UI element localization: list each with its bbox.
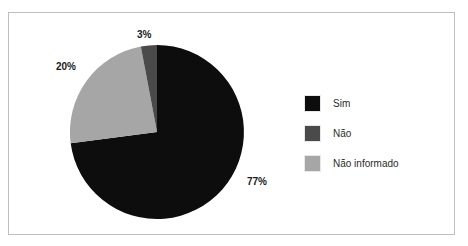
legend-label-sim: Sim [333, 95, 350, 112]
pie-label-nao-percent: 3% [137, 29, 151, 40]
legend-swatch-nao [304, 125, 321, 142]
legend-swatch-nao-informado [304, 155, 321, 172]
screenshot-root: 3% 20% 77% Sim Não Não informado [0, 0, 468, 246]
top-clipped-text-strip [0, 0, 468, 8]
legend-label-nao-informado: Não informado [333, 155, 399, 172]
legend-item-nao-informado[interactable]: Não informado [304, 155, 444, 172]
legend-item-nao[interactable]: Não [304, 125, 444, 142]
pie-chart [62, 20, 252, 246]
legend: Sim Não Não informado [304, 95, 444, 185]
legend-label-nao: Não [333, 125, 351, 142]
pie-label-nao-informado-percent: 20% [56, 61, 76, 72]
plot-area: 3% 20% 77% Sim Não Não informado [9, 13, 456, 236]
chart-frame: 3% 20% 77% Sim Não Não informado [8, 12, 455, 235]
legend-item-sim[interactable]: Sim [304, 95, 444, 112]
pie-label-sim-percent: 77% [247, 176, 267, 187]
legend-swatch-sim [304, 95, 321, 112]
